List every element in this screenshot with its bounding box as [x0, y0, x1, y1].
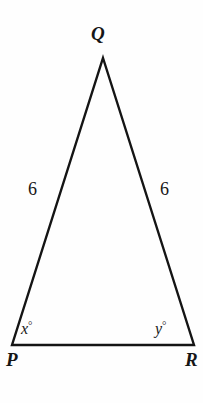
angle-label-y: y°	[155, 320, 167, 337]
angle-label-x: x°	[21, 320, 33, 337]
degree-symbol-x: °	[28, 319, 32, 331]
geometry-figure: Q P R 6 6 x° y°	[0, 0, 203, 403]
side-length-label-qr: 6	[160, 180, 169, 198]
triangle-shape	[0, 0, 203, 403]
vertex-label-r: R	[185, 350, 198, 369]
vertex-label-q: Q	[91, 24, 105, 43]
degree-symbol-y: °	[162, 319, 166, 331]
side-length-label-pq: 6	[28, 180, 37, 198]
vertex-label-p: P	[6, 350, 18, 369]
triangle-pqr-outline	[12, 58, 194, 345]
